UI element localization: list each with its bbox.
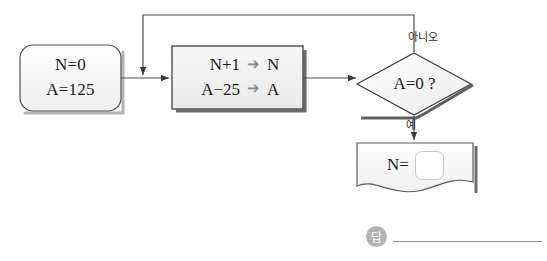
output-document-shape bbox=[357, 143, 473, 192]
start-terminator-shape bbox=[20, 45, 121, 111]
flowchart-canvas: N=0 A=125 N+1 ➔ N A−25 ➔ A A=0 ? N= 아니오 … bbox=[0, 0, 547, 261]
process-box-shape bbox=[172, 46, 303, 109]
edge-label-yes: 예 bbox=[406, 116, 416, 132]
decision-diamond-shape bbox=[357, 53, 471, 115]
edge-label-no: 아니오 bbox=[408, 28, 438, 44]
answer-row: 답 bbox=[366, 222, 542, 250]
answer-badge-icon: 답 bbox=[366, 226, 387, 247]
answer-blank-line[interactable] bbox=[393, 241, 542, 242]
